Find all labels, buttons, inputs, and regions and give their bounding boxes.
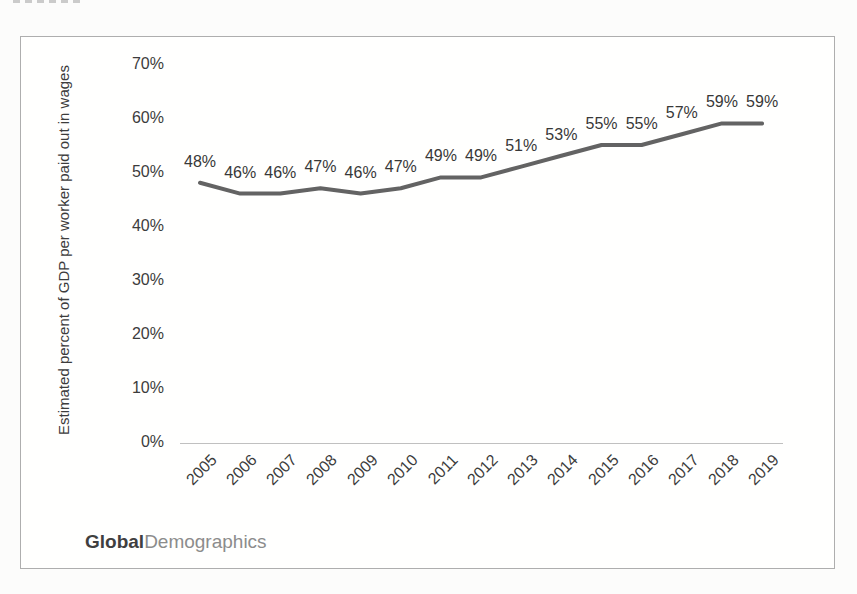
data-label: 53%: [545, 126, 577, 144]
x-tick-label: 2009: [343, 451, 381, 489]
page: { "branding": { "bold": "Global", "light…: [0, 0, 857, 594]
x-tick-label: 2010: [384, 451, 422, 489]
x-tick-label: 2018: [705, 451, 743, 489]
x-tick-label: 2007: [263, 451, 301, 489]
data-label: 48%: [184, 153, 216, 171]
data-label: 59%: [706, 93, 738, 111]
data-label: 55%: [626, 115, 658, 133]
y-tick-label: 20%: [104, 324, 164, 343]
x-tick-label: 2011: [425, 451, 462, 488]
cropped-text-artifact: [13, 0, 85, 3]
x-tick-label: 2014: [544, 451, 582, 489]
y-tick-label: 10%: [104, 378, 164, 397]
y-tick-label: 40%: [104, 216, 164, 235]
x-tick-label: 2006: [223, 451, 261, 489]
x-tick-label: 2013: [504, 451, 542, 489]
y-tick-label: 0%: [104, 432, 164, 451]
data-label: 51%: [505, 137, 537, 155]
x-tick-label: 2016: [624, 451, 662, 489]
x-tick-label: 2019: [745, 451, 783, 489]
x-tick-label: 2017: [665, 451, 703, 489]
data-label: 55%: [585, 115, 617, 133]
data-label: 57%: [666, 104, 698, 122]
y-tick-label: 60%: [104, 108, 164, 127]
data-label: 47%: [385, 158, 417, 176]
brand-global: Global: [85, 531, 144, 552]
data-label: 46%: [224, 164, 256, 182]
x-tick-label: 2015: [584, 451, 622, 489]
data-label: 49%: [425, 147, 457, 165]
data-label: 47%: [304, 158, 336, 176]
y-tick-label: 50%: [104, 162, 164, 181]
x-axis-line: [180, 443, 783, 444]
y-axis-title: Estimated percent of GDP per worker paid…: [54, 65, 94, 435]
data-label: 59%: [746, 93, 778, 111]
x-tick-label: 2008: [303, 451, 341, 489]
chart-frame: Estimated percent of GDP per worker paid…: [20, 36, 835, 569]
x-tick-label: 2012: [464, 451, 502, 489]
data-label: 49%: [465, 147, 497, 165]
y-tick-label: 30%: [104, 270, 164, 289]
data-label: 46%: [345, 164, 377, 182]
brand-demographics: Demographics: [144, 531, 267, 552]
x-tick-label: 2005: [183, 451, 221, 489]
data-label: 46%: [264, 164, 296, 182]
y-tick-label: 70%: [104, 54, 164, 73]
brand-watermark: GlobalDemographics: [85, 531, 267, 553]
